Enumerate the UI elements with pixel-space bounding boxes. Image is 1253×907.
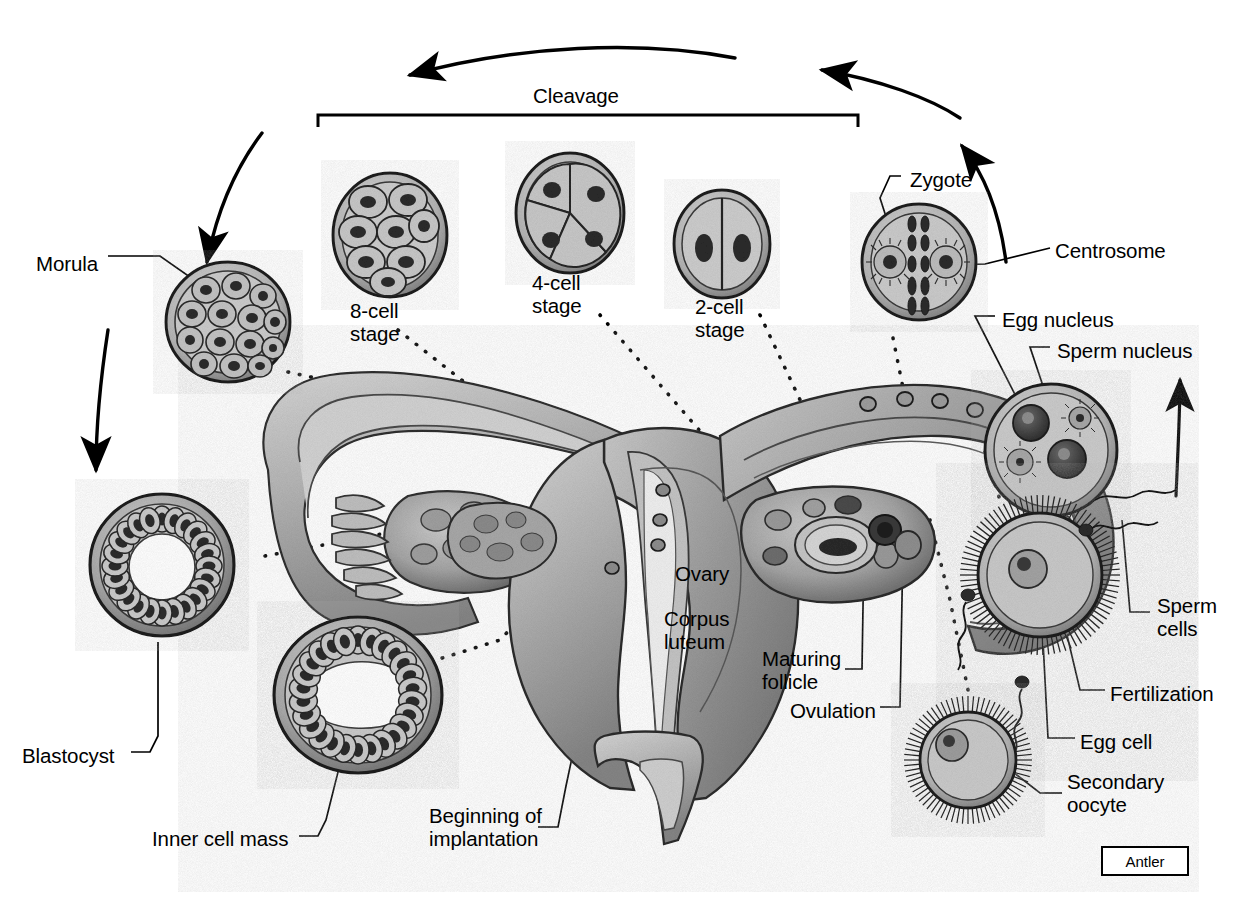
vaginal-canal (640, 759, 684, 830)
label-secondary-oocyte: Secondary oocyte (1067, 771, 1164, 817)
arrow-cycle-right-upper (822, 70, 960, 118)
label-corpus-luteum: Corpus luteum (664, 608, 730, 654)
four-cell-embryo (516, 153, 624, 273)
label-cleavage: Cleavage (533, 85, 619, 108)
primary-follicle-a (765, 510, 791, 530)
morula-embryo (166, 262, 290, 382)
label-maturing-follicle: Maturing follicle (762, 648, 841, 694)
maturing-follicle (795, 517, 877, 573)
dotted-2cell-to-tube (760, 315, 802, 404)
label-beginning-of-implantation: Beginning of implantation (429, 805, 542, 851)
credit-box-label: Antler (1125, 853, 1164, 870)
diagram-canvas: Cleavage Morula 8-cell stage 4-cell stag… (0, 0, 1253, 907)
label-egg-nucleus: Egg nucleus (1002, 309, 1114, 332)
label-ovary: Ovary (675, 563, 729, 586)
leader-sperm-cells (1122, 520, 1150, 612)
leader-blastocyst (131, 642, 158, 752)
two-cell-embryo (674, 190, 770, 298)
label-ovulation: Ovulation (790, 700, 876, 723)
secondary-oocyte-cell (904, 696, 1032, 824)
right-ovary (741, 487, 935, 603)
diagram-artwork (0, 0, 1253, 907)
label-inner-cell-mass: Inner cell mass (152, 828, 288, 851)
blastocyst-embryo (90, 494, 234, 636)
arrow-sperm-pathway-up (1176, 380, 1180, 496)
label-egg-cell: Egg cell (1080, 731, 1152, 754)
label-8-cell-stage: 8-cell stage (350, 300, 400, 346)
fertilization-egg-cell (958, 490, 1176, 754)
primary-follicle-d (763, 547, 787, 565)
blastocyst-inner-cell-mass-embryo (274, 617, 442, 773)
zygote-cell (862, 204, 976, 320)
label-zygote: Zygote (910, 169, 972, 192)
eight-cell-embryo (333, 173, 447, 297)
arrow-cycle-left-lower (96, 330, 108, 470)
label-morula: Morula (36, 253, 98, 276)
credit-box: Antler (1101, 846, 1189, 876)
arrow-cycle-left-upper (207, 133, 262, 262)
label-sperm-cells: Sperm cells (1157, 595, 1217, 641)
label-blastocyst: Blastocyst (22, 745, 114, 768)
primary-follicle-c (835, 496, 861, 514)
pronuclei-cell (985, 384, 1117, 516)
label-centrosome: Centrosome (1055, 240, 1166, 263)
label-2-cell-stage: 2-cell stage (695, 296, 745, 342)
sperm-nucleus (1048, 440, 1086, 478)
egg-nucleus (1013, 405, 1049, 441)
label-fertilization: Fertilization (1110, 683, 1214, 706)
primary-follicle-b (803, 499, 825, 517)
arrow-cleavage-direction-left (410, 48, 735, 75)
cleavage-bracket (318, 115, 858, 127)
label-4-cell-stage: 4-cell stage (532, 272, 582, 318)
label-sperm-nucleus: Sperm nucleus (1057, 340, 1192, 363)
